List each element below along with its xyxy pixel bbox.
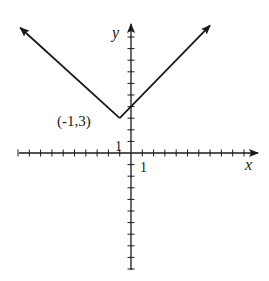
- graph-left-branch: [20, 28, 119, 118]
- y-unit-label: 1: [115, 139, 122, 154]
- coordinate-plane: y x (-1,3) 1 1: [0, 0, 269, 281]
- vertex-label: (-1,3): [57, 113, 91, 130]
- x-axis: [18, 150, 258, 157]
- y-axis: [128, 24, 135, 270]
- x-axis-label: x: [244, 156, 252, 173]
- x-unit-label: 1: [140, 160, 147, 175]
- y-axis-label: y: [110, 24, 120, 42]
